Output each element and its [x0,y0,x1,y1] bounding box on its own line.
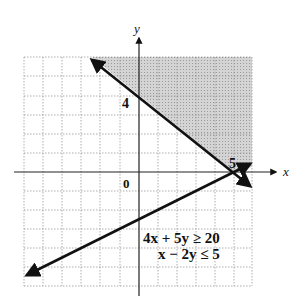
shaded-region [92,57,252,172]
y-tick-4: 4 [122,96,129,111]
origin-label: 0 [123,176,130,191]
inequality-2: x − 2y ≤ 5 [158,246,220,262]
x-tick-5: 5 [229,156,236,171]
x-axis-label: x [282,164,289,179]
y-axis-label: y [132,21,140,36]
inequality-1: 4x + 5y ≥ 20 [143,230,220,246]
graph: y x 0 4 5 4x + 5y ≥ 20 x − 2y ≤ 5 [0,0,305,303]
